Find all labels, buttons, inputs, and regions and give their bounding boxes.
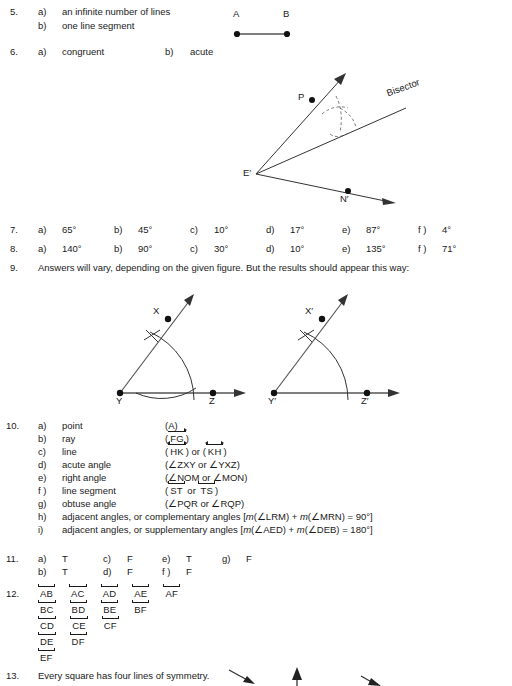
item-6-b-text: acute — [190, 46, 213, 57]
item-10-g-notation: (∠PQR or ∠RQP) — [165, 498, 244, 509]
item-10-d-letter: d) — [38, 459, 46, 470]
item-11-d-text: F — [127, 566, 133, 577]
item-7-d-text: 17° — [290, 224, 304, 235]
measure-symbol-1: m — [246, 511, 254, 522]
item-8-c-text: 30° — [214, 243, 228, 254]
line-kh-notation: KH — [206, 446, 224, 457]
item-11-e-letter: e) — [162, 553, 170, 564]
angle-xyz-prime-label-x: X′ — [305, 305, 313, 316]
item-8-d-letter: d) — [266, 243, 274, 254]
measure-symbol-3: m — [243, 524, 251, 535]
item-6-a-text: congruent — [62, 46, 104, 57]
paren-close: ) — [175, 420, 178, 431]
figure-angle-xyz: X Y Z — [108, 288, 253, 403]
item-11-b-text: T — [62, 566, 68, 577]
item-7-a-letter: a) — [38, 224, 46, 235]
angle-xyz-prime-label-z: Z′ — [361, 395, 369, 406]
item-11-b-letter: b) — [38, 566, 46, 577]
item-8-a-letter: a) — [38, 243, 46, 254]
item-13-text: Every square has four lines of symmetry. — [38, 670, 209, 681]
item-10-a-letter: a) — [38, 420, 46, 431]
bisector-label-n-prime: N′ — [340, 193, 349, 204]
item-8-b-letter: b) — [114, 243, 122, 254]
paren-close: ) — [215, 485, 218, 496]
item-10-a-term: point — [62, 420, 83, 431]
item-7-b-text: 45° — [138, 224, 152, 235]
item-10-h-letter: h) — [38, 511, 46, 522]
item-8-e-text: 135° — [366, 243, 386, 254]
segment-ae: AE — [132, 588, 149, 599]
segment-ab-label-a: A — [233, 8, 239, 19]
item-7-e-letter: e) — [342, 224, 350, 235]
item-7-c-letter: c) — [190, 224, 198, 235]
item-11-f-letter: f ) — [162, 566, 170, 577]
item-11-g-letter: g) — [222, 553, 230, 564]
item-8-number: 8. — [10, 243, 18, 254]
item-10-f-letter: f ) — [38, 485, 46, 496]
segment-ad: AD — [101, 588, 119, 599]
item-7-e-text: 87° — [366, 224, 380, 235]
item-10-d-notation: (∠ZXY or ∠YXZ) — [165, 459, 240, 470]
item-8-f-text: 71° — [442, 243, 456, 254]
measure-symbol-4: m — [297, 524, 305, 535]
item-7-c-text: 10° — [214, 224, 228, 235]
item-12-row-2: BCBDBEBF — [38, 604, 149, 615]
figure-symmetry-partial — [225, 664, 405, 686]
item-10-e-term: right angle — [62, 472, 106, 483]
item-12-row-3: CDCECF — [38, 620, 119, 631]
angle-xyz-label-y: Y — [116, 395, 122, 406]
item-12-row-4: DEDF — [38, 636, 87, 647]
item-5-a-letter: a) — [38, 6, 46, 17]
item-11-c-text: F — [127, 553, 133, 564]
item-5-b-letter: b) — [38, 20, 46, 31]
item-10-f-term: line segment — [62, 485, 116, 496]
item-10-f-notation: (ST or TS) — [165, 485, 218, 496]
item-7-f-letter: f ) — [418, 224, 426, 235]
item-11-number: 11. — [6, 553, 19, 564]
item-10-c-notation: (HK) or (KH) — [165, 446, 227, 457]
item-12-row-1: ABACADAEAF — [38, 588, 180, 599]
item-9-text: Answers will vary, depending on the give… — [38, 262, 409, 273]
segment-ac: AC — [69, 588, 87, 599]
item-10-h-angle-2: (∠MRN) = 90°] — [308, 511, 373, 522]
item-10-b-term: ray — [62, 433, 75, 444]
item-5-a-text: an infinite number of lines — [62, 6, 170, 17]
segment-bc: BC — [38, 604, 56, 615]
item-10-h-prefix: adjacent angles, or complementary angles… — [62, 511, 246, 522]
item-12-number: 12. — [6, 588, 19, 599]
item-5-number: 5. — [10, 6, 18, 17]
segment-de: DE — [38, 636, 56, 647]
item-10-i-prefix: adjacent angles, or supplementary angles… — [62, 524, 243, 535]
line-hk-text: HK — [170, 446, 184, 457]
item-8-f-letter: f ) — [418, 243, 426, 254]
item-11-f-text: F — [186, 566, 192, 577]
item-10-c-term: line — [62, 446, 77, 457]
item-8-a-text: 140° — [62, 243, 82, 254]
segment-ab: AB — [38, 588, 55, 599]
item-11-g-text: F — [246, 553, 252, 564]
segment-st-notation: ST — [168, 485, 185, 496]
item-10-i-letter: i) — [38, 524, 43, 535]
segment-ts-notation: TS — [198, 485, 215, 496]
item-7-number: 7. — [10, 224, 18, 235]
segment-af: AF — [163, 588, 180, 599]
item-10-a-notation: (A) — [165, 420, 178, 431]
bisector-label-e-prime: E′ — [243, 167, 251, 178]
item-10-g-letter: g) — [38, 498, 46, 509]
segment-or-separator: or — [185, 485, 199, 496]
item-6-number: 6. — [10, 46, 18, 57]
item-10-i-angle-2: (∠DEB) = 180°] — [305, 524, 373, 535]
item-10-h-text: adjacent angles, or complementary angles… — [62, 511, 373, 522]
item-7-f-text: 4° — [442, 224, 451, 235]
figure-angle-bisector: P E′ N′ Bisector — [230, 60, 460, 210]
item-13-number: 13. — [6, 670, 19, 681]
item-8-e-letter: e) — [342, 243, 350, 254]
angle-xyz-label-z: Z — [209, 395, 215, 406]
figure-angle-xyz-prime: X′ Y′ Z′ — [262, 288, 407, 403]
item-7-a-text: 65° — [62, 224, 76, 235]
paren-close: ) — [223, 446, 226, 457]
segment-ab-label-b: B — [283, 8, 289, 19]
item-5-b-text: one line segment — [62, 20, 134, 31]
angle-xyz-prime-label-y: Y′ — [268, 395, 276, 406]
line-or-separator: ) or ( — [186, 446, 206, 457]
